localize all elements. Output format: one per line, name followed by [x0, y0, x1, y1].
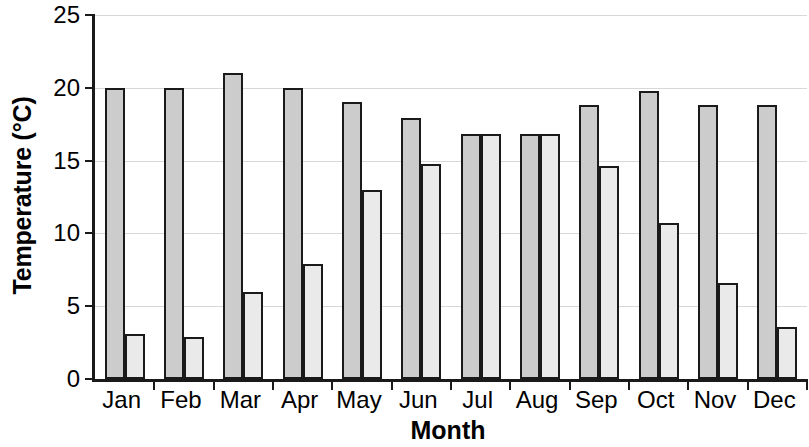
- y-axis-title-text: Temperature (°C): [8, 96, 37, 294]
- month-group: [342, 15, 382, 379]
- month-group: [401, 15, 441, 379]
- bar: [223, 73, 243, 379]
- bar: [105, 88, 125, 379]
- y-axis-title: Temperature (°C): [0, 0, 44, 390]
- x-tick-label: Feb: [160, 386, 201, 414]
- x-tick-label: Apr: [281, 386, 318, 414]
- bar: [481, 134, 501, 379]
- y-tick-mark: [85, 87, 95, 89]
- bar: [243, 292, 263, 379]
- y-tick-label: 25: [53, 3, 80, 27]
- plot-area: [92, 15, 807, 382]
- y-tick-label: 10: [53, 221, 80, 245]
- bar: [757, 105, 777, 379]
- bar: [401, 118, 421, 379]
- bar: [698, 105, 718, 379]
- bar: [520, 134, 540, 379]
- bar: [164, 88, 184, 379]
- x-tick-label: Jun: [399, 386, 438, 414]
- x-tick-label: Sep: [575, 386, 618, 414]
- bar: [659, 223, 679, 379]
- month-group: [283, 15, 323, 379]
- month-group: [223, 15, 263, 379]
- bars-layer: [95, 15, 807, 379]
- y-tick-label: 5: [67, 294, 80, 318]
- x-tick-label: Aug: [516, 386, 559, 414]
- x-tick-label: Dec: [753, 386, 796, 414]
- y-tick-mark: [85, 160, 95, 162]
- y-tick-mark: [85, 378, 95, 380]
- month-group: [698, 15, 738, 379]
- x-tick-label: Jan: [102, 386, 141, 414]
- bar: [461, 134, 481, 379]
- bar: [342, 102, 362, 379]
- x-tick-label: Jul: [462, 386, 493, 414]
- y-tick-mark: [85, 14, 95, 16]
- x-tick-label: May: [336, 386, 381, 414]
- bar: [599, 166, 619, 379]
- month-group: [105, 15, 145, 379]
- y-tick-label: 0: [67, 367, 80, 391]
- x-tick-mark: [806, 379, 808, 390]
- bar: [125, 334, 145, 379]
- y-tick-label: 20: [53, 76, 80, 100]
- bar: [540, 134, 560, 379]
- bar: [718, 283, 738, 379]
- bar: [421, 164, 441, 379]
- x-tick-label: Oct: [637, 386, 674, 414]
- month-group: [164, 15, 204, 379]
- month-group: [639, 15, 679, 379]
- y-tick-mark: [85, 305, 95, 307]
- month-group: [579, 15, 619, 379]
- bar-chart: Temperature (°C) 0510152025 JanFebMarApr…: [0, 0, 809, 447]
- month-group: [520, 15, 560, 379]
- month-group: [461, 15, 501, 379]
- x-axis-title: Month: [92, 416, 804, 445]
- bar: [283, 88, 303, 379]
- bar: [777, 327, 797, 379]
- bar: [639, 91, 659, 379]
- y-tick-label: 15: [53, 149, 80, 173]
- x-tick-label: Nov: [694, 386, 737, 414]
- bar: [184, 337, 204, 379]
- x-tick-label: Mar: [220, 386, 261, 414]
- y-tick-mark: [85, 232, 95, 234]
- y-axis-tick-labels: 0510152025: [44, 0, 88, 390]
- bar: [579, 105, 599, 379]
- bar: [362, 190, 382, 379]
- bar: [303, 264, 323, 379]
- month-group: [757, 15, 797, 379]
